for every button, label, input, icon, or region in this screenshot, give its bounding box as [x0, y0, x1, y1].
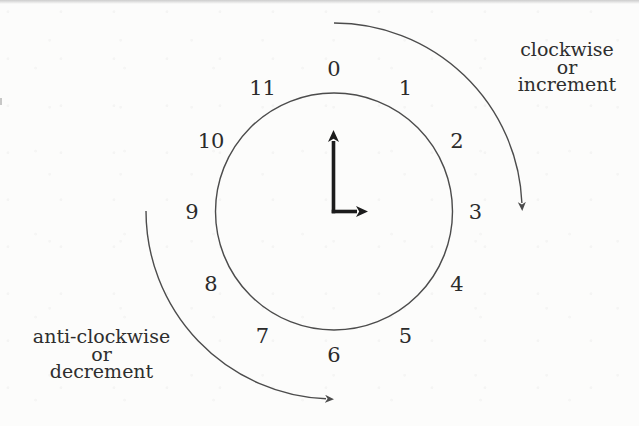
clock-number-8: 8 [204, 272, 217, 296]
clockwise-label: clockwise or increment [496, 41, 638, 94]
clock-number-3: 3 [469, 200, 482, 224]
clockwise-label-line: increment [496, 76, 638, 94]
clock-number-6: 6 [327, 343, 340, 367]
clock-number-5: 5 [399, 324, 412, 348]
clockwise-arc-arrow [334, 23, 522, 203]
clock-number-2: 2 [450, 129, 463, 153]
clock-number-10: 10 [198, 129, 225, 153]
anticlockwise-label-line: decrement [24, 363, 179, 381]
clock-number-7: 7 [256, 324, 269, 348]
clock-number-1: 1 [399, 76, 412, 100]
clock-number-4: 4 [450, 272, 463, 296]
figure-canvas: 0 1 2 3 4 5 6 7 8 9 10 11 clockwise or i… [0, 0, 639, 426]
clock-number-11: 11 [249, 76, 276, 100]
clock-number-0: 0 [327, 57, 340, 81]
anticlockwise-label: anti-clockwise or decrement [24, 328, 179, 381]
clock-number-9: 9 [185, 200, 198, 224]
